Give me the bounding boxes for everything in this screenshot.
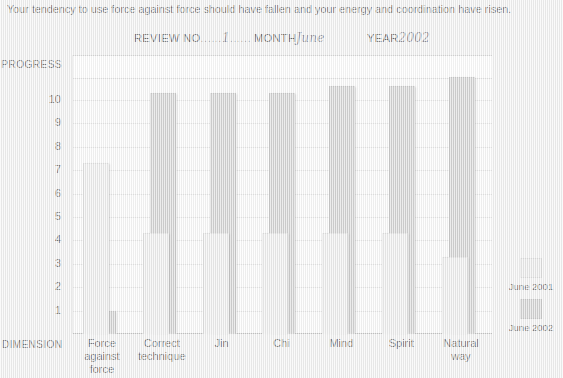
bar-group: [312, 78, 372, 334]
y-tick-8: 8: [55, 140, 61, 152]
y-tick-4: 4: [55, 233, 61, 245]
review-fields-row: REVIEW NO......1...... MONTHJune YEAR200…: [134, 31, 454, 49]
x-tick-label: Chi: [252, 337, 312, 350]
bar-group: [432, 78, 492, 334]
y-axis-title: PROGRESS: [1, 59, 62, 70]
x-tick-label: Correcttechnique: [132, 337, 192, 363]
y-tick-7: 7: [55, 163, 61, 175]
month-value: June: [296, 31, 324, 45]
x-tick-line: Correct: [132, 337, 192, 350]
month-label: MONTH: [254, 32, 296, 44]
x-tick-line: Mind: [311, 337, 371, 350]
y-tick-1: 1: [55, 304, 61, 316]
legend-swatch: [520, 299, 542, 319]
progress-top-band: [73, 56, 492, 79]
review-no-dots-trailing: ......: [230, 32, 251, 44]
bar-group: [193, 78, 253, 334]
review-no-dots: ......: [201, 32, 222, 44]
chart-legend: June 2001June 2002: [500, 258, 562, 340]
legend-item[interactable]: June 2001: [500, 258, 562, 292]
y-tick-9: 9: [55, 116, 61, 128]
x-tick-label: Forceagainst force: [72, 337, 132, 376]
review-no-value: 1: [222, 31, 230, 45]
x-tick-label: Naturalway: [431, 337, 491, 363]
y-tick-10: 10: [49, 93, 61, 105]
bar-group: [73, 78, 133, 334]
bar-june-2001[interactable]: [322, 233, 348, 334]
bar-june-2001[interactable]: [143, 233, 169, 334]
y-tick-3: 3: [55, 257, 61, 269]
x-tick-label: Jin: [192, 337, 252, 350]
x-tick-line: way: [431, 350, 491, 363]
intro-text: Your tendency to use force against force…: [7, 3, 511, 15]
month-field[interactable]: MONTHJune: [254, 31, 325, 45]
y-tick-6: 6: [55, 187, 61, 199]
legend-swatch: [520, 258, 542, 278]
x-tick-line: Natural: [431, 337, 491, 350]
x-tick-label: Mind: [311, 337, 371, 350]
year-value: 2002: [399, 31, 430, 45]
bar-june-2001[interactable]: [262, 233, 288, 334]
x-axis: Forceagainst forceCorrecttechniqueJinChi…: [72, 337, 491, 378]
y-tick-2: 2: [55, 280, 61, 292]
year-field[interactable]: YEAR2002: [367, 31, 430, 45]
review-no-field[interactable]: REVIEW NO......1......: [134, 31, 251, 45]
worksheet-page: Your tendency to use force against force…: [0, 0, 563, 378]
bar-group: [133, 78, 193, 334]
y-tick-5: 5: [55, 210, 61, 222]
x-tick-line: Force: [72, 337, 132, 350]
plot-area: [73, 78, 492, 334]
bar-june-2001[interactable]: [83, 163, 109, 334]
bar-group: [372, 78, 432, 334]
bar-june-2001[interactable]: [442, 257, 468, 334]
x-tick-line: Jin: [192, 337, 252, 350]
bar-group: [253, 78, 313, 334]
review-no-label: REVIEW NO: [134, 32, 201, 44]
x-tick-line: Chi: [252, 337, 312, 350]
legend-item[interactable]: June 2002: [500, 299, 562, 333]
y-axis: PROGRESS 10987654321: [0, 55, 66, 333]
x-axis-title: DIMENSION: [2, 339, 62, 350]
x-tick-line: against force: [72, 350, 132, 376]
progress-bar-chart: [72, 55, 492, 334]
bar-june-2001[interactable]: [382, 233, 408, 334]
legend-label: June 2002: [500, 322, 562, 333]
x-tick-line: Spirit: [371, 337, 431, 350]
bar-june-2001[interactable]: [203, 233, 229, 334]
legend-label: June 2001: [500, 281, 562, 292]
x-tick-label: Spirit: [371, 337, 431, 350]
year-label: YEAR: [367, 32, 399, 44]
x-tick-line: technique: [132, 350, 192, 363]
